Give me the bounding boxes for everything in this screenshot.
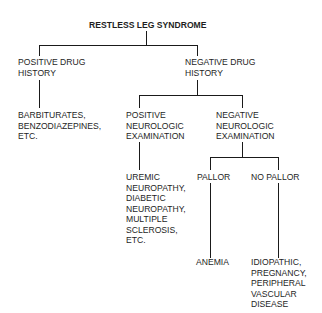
connector-to-neuro-causes (139, 142, 140, 170)
connector-root-stem (146, 31, 147, 45)
node-other-causes: IDIOPATHIC, PREGNANCY, PERIPHERAL VASCUL… (251, 257, 307, 310)
node-no-pallor: NO PALLOR (251, 172, 300, 183)
node-neuro-causes: UREMIC NEUROPATHY, DIABETIC NEUROPATHY, … (126, 172, 186, 246)
node-drug-causes: BARBITURATES, BENZODIAZEPINES, ETC. (18, 110, 101, 142)
connector-to-other-causes (278, 183, 279, 258)
connector-to-drug-causes (39, 80, 40, 108)
node-negative-drug-history: NEGATIVE DRUG HISTORY (185, 57, 256, 78)
node-anemia: ANEMIA (196, 257, 229, 268)
node-negative-neurologic-exam: NEGATIVE NEUROLOGIC EXAMINATION (216, 110, 275, 142)
connector-to-no-pallor (278, 157, 279, 170)
decision-tree-diagram: RESTLESS LEG SYNDROME POSITIVE DRUG HIST… (0, 0, 322, 313)
connector-root-branch (39, 45, 198, 46)
connector-pallor-branch (210, 157, 279, 158)
connector-to-negative-neuro (242, 95, 243, 108)
connector-negative-drug-stem (197, 80, 198, 95)
connector-to-positive-drug (39, 45, 40, 56)
connector-to-negative-drug (197, 45, 198, 56)
node-positive-neurologic-exam: POSITIVE NEUROLOGIC EXAMINATION (126, 110, 185, 142)
connector-to-pallor (210, 157, 211, 170)
connector-neuro-branch (139, 95, 243, 96)
node-positive-drug-history: POSITIVE DRUG HISTORY (18, 57, 85, 78)
connector-negative-neuro-stem (242, 142, 243, 157)
connector-to-positive-neuro (139, 95, 140, 108)
root-node-restless-leg-syndrome: RESTLESS LEG SYNDROME (89, 20, 206, 31)
node-pallor: PALLOR (197, 172, 230, 183)
connector-to-anemia (210, 183, 211, 258)
